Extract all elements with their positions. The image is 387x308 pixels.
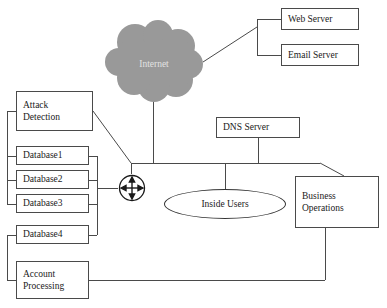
email-server-box[interactable]: Email Server (281, 44, 359, 66)
account-processing-box[interactable]: Account Processing (16, 261, 89, 299)
email-server-label: Email Server (288, 49, 358, 62)
web-server-label: Web Server (288, 13, 358, 26)
router-node[interactable] (118, 174, 146, 202)
account-processing-label-line2: Processing (23, 280, 88, 293)
link-cloud-to-server-bracket (203, 27, 257, 62)
database4-box[interactable]: Database4 (16, 225, 89, 244)
attack-detection-label-line2: Detection (23, 111, 92, 124)
business-operations-label-line1: Business (302, 190, 378, 203)
internet-cloud-node[interactable]: Internet (104, 20, 204, 102)
database3-box[interactable]: Database3 (16, 194, 89, 213)
cloud-icon (104, 20, 204, 102)
business-operations-label-line2: Operations (302, 202, 378, 215)
account-processing-label-line1: Account (23, 268, 88, 281)
attack-detection-box[interactable]: Attack Detection (16, 91, 93, 131)
database1-box[interactable]: Database1 (16, 146, 89, 165)
attack-detection-label-line1: Attack (23, 99, 92, 112)
database1-label: Database1 (23, 149, 88, 162)
database2-box[interactable]: Database2 (16, 170, 89, 189)
web-server-box[interactable]: Web Server (281, 8, 359, 30)
router-icon (118, 174, 146, 202)
database2-label: Database2 (23, 173, 88, 186)
database3-label: Database3 (23, 197, 88, 210)
database4-label: Database4 (23, 228, 88, 241)
network-diagram: Internet Web Server Email Server Attack … (0, 0, 387, 308)
inside-users-label: Inside Users (201, 199, 248, 209)
link-backbone-to-business-operations (320, 163, 344, 176)
inside-users-ellipse[interactable]: Inside Users (164, 189, 286, 219)
business-operations-box[interactable]: Business Operations (295, 176, 379, 228)
link-attack-detection-to-router (93, 111, 131, 163)
dns-server-box[interactable]: DNS Server (216, 117, 300, 138)
dns-server-label: DNS Server (223, 121, 299, 134)
